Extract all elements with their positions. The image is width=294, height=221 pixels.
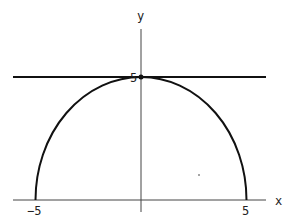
tangent-point [139,75,144,80]
figure: y x −5 5 5 [0,0,294,221]
tick-label-y5: 5 [130,71,137,85]
y-axis-label: y [137,9,144,23]
tick-label-neg5: −5 [27,204,41,218]
stray-dot [198,174,200,176]
plot-canvas: y x −5 5 5 [0,0,294,221]
x-axis-label: x [275,194,282,208]
tick-label-pos5: 5 [242,204,249,218]
